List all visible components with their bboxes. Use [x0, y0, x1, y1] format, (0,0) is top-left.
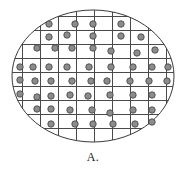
- die-dot-marker: [90, 21, 96, 27]
- die-dot-marker: [152, 47, 158, 53]
- die-dot-marker: [32, 78, 38, 84]
- die-dot-marker: [127, 78, 133, 84]
- die-dot-marker: [72, 121, 78, 127]
- die-dot-marker: [130, 64, 136, 70]
- die-dot-marker: [48, 78, 54, 84]
- die-dot-marker: [72, 21, 78, 27]
- die-dot-marker: [118, 21, 124, 27]
- die-dot-marker: [34, 106, 40, 112]
- die-dot-marker: [107, 92, 113, 98]
- die-dot-marker: [17, 91, 23, 97]
- die-dot-marker: [34, 45, 40, 51]
- die-dot-marker: [149, 64, 155, 70]
- die-dot-marker: [90, 121, 96, 127]
- die-dot-marker: [52, 45, 58, 51]
- die-dot-marker: [138, 34, 144, 40]
- die-dot-marker: [46, 34, 52, 40]
- die-dot-marker: [118, 33, 124, 39]
- die-dot-marker: [149, 119, 155, 125]
- die-dot-marker: [17, 64, 23, 70]
- die-dot-marker: [34, 94, 40, 100]
- die-dot-marker: [108, 48, 114, 54]
- die-dot-marker: [130, 92, 136, 98]
- die-dot-marker: [149, 107, 155, 113]
- die-dot-marker: [108, 64, 114, 70]
- die-dot-marker: [89, 107, 95, 113]
- die-dot-marker: [134, 50, 140, 56]
- die-dot-marker: [48, 121, 54, 127]
- wafer-map-diagram: [0, 0, 186, 152]
- die-dot-marker: [67, 92, 73, 98]
- die-dot-marker: [146, 78, 152, 84]
- die-dot-marker: [85, 93, 91, 99]
- die-dot-marker: [104, 78, 110, 84]
- die-dot-marker: [90, 33, 96, 39]
- wafer-map-figure: A.: [0, 0, 186, 179]
- die-dot-marker: [64, 64, 70, 70]
- die-dot-marker: [107, 110, 113, 116]
- die-dot-marker: [67, 107, 73, 113]
- figure-caption-label: A.: [0, 150, 186, 165]
- die-dot-marker: [46, 21, 52, 27]
- die-dot-marker: [30, 64, 36, 70]
- die-dot-marker: [46, 64, 52, 70]
- die-dot-marker: [164, 78, 170, 84]
- die-dot-marker: [130, 107, 136, 113]
- die-dot-marker: [88, 78, 94, 84]
- die-dot-marker: [90, 45, 96, 51]
- die-dot-marker: [48, 93, 54, 99]
- die-dot-marker: [17, 77, 23, 83]
- die-dot-marker: [69, 78, 75, 84]
- die-dot-marker: [86, 64, 92, 70]
- die-dot-marker: [110, 121, 116, 127]
- die-dot-marker: [48, 106, 54, 112]
- die-dot-marker: [69, 45, 75, 51]
- die-dot-marker: [132, 121, 138, 127]
- die-dot-marker: [149, 92, 155, 98]
- die-dot-marker: [64, 32, 70, 38]
- die-dot-marker: [165, 64, 171, 70]
